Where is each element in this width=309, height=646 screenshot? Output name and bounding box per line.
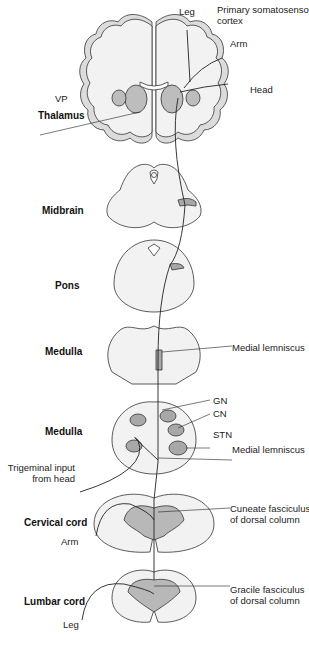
label-leg-cortex: Leg <box>179 6 195 17</box>
label-arm-cortex: Arm <box>230 38 247 49</box>
medulla-lower-section <box>112 402 196 474</box>
brain-coronal-section <box>80 15 229 144</box>
label-head-cortex: Head <box>250 84 273 95</box>
label-stn: STN <box>213 429 232 440</box>
label-gn: GN <box>213 395 227 406</box>
label-medial-lemniscus-lower: Medial lemniscus <box>232 444 305 455</box>
label-medial-lemniscus-upper: Medial lemniscus <box>232 342 305 353</box>
label-gracile-2: of dorsal column <box>230 595 300 606</box>
label-leg-input: Leg <box>63 619 79 630</box>
level-thalamus: Thalamus <box>38 110 85 121</box>
label-cn: CN <box>213 408 227 419</box>
level-medulla-upper: Medulla <box>45 346 82 357</box>
label-gracile-1: Gracile fasciculus <box>230 584 304 595</box>
level-cervical-cord: Cervical cord <box>24 517 87 528</box>
label-primary-cortex-2: cortex <box>217 15 243 26</box>
level-lumbar-cord: Lumbar cord <box>24 596 85 607</box>
medulla-upper-section <box>108 326 200 384</box>
label-cuneate-1: Cuneate fasciculus <box>230 503 309 514</box>
label-primary-cortex-1: Primary somatosensory <box>217 4 309 15</box>
label-cuneate-2: of dorsal column <box>230 514 300 525</box>
level-pons: Pons <box>55 280 79 291</box>
label-trigeminal-1: Trigeminal input <box>8 462 75 473</box>
label-arm-input: Arm <box>61 536 78 547</box>
level-medulla-lower: Medulla <box>45 426 82 437</box>
pathway-diagram <box>0 0 309 646</box>
label-trigeminal-2: from head <box>32 473 75 484</box>
label-vp: VP <box>55 93 68 104</box>
level-midbrain: Midbrain <box>42 205 84 216</box>
